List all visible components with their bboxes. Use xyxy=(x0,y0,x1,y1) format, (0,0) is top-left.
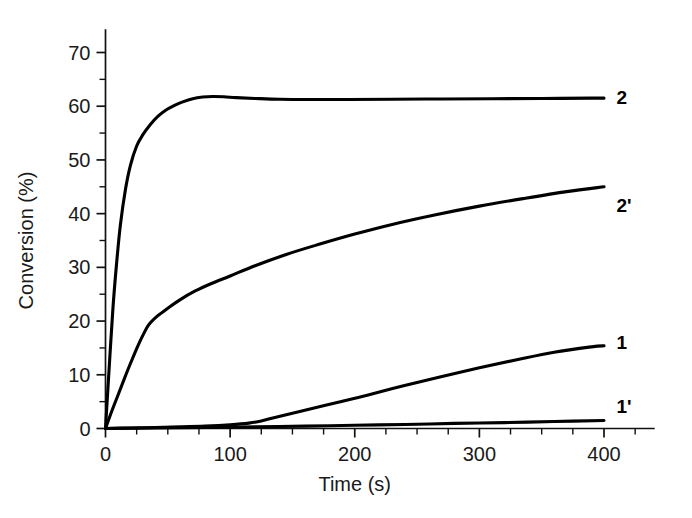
series-line-2-prime xyxy=(106,187,605,429)
series-label-2-prime: 2' xyxy=(616,195,631,216)
y-axis-title: Conversion (%) xyxy=(15,172,37,310)
x-tick-label: 300 xyxy=(463,443,496,465)
x-tick-label: 100 xyxy=(213,443,246,465)
y-tick-label: 60 xyxy=(68,95,90,117)
plot-canvas: 0102030405060700100200300400Time (s)Conv… xyxy=(0,0,692,518)
x-tick-label: 0 xyxy=(100,443,111,465)
y-tick-label: 50 xyxy=(68,149,90,171)
series-label-2: 2 xyxy=(616,87,627,108)
conversion-vs-time-chart: 0102030405060700100200300400Time (s)Conv… xyxy=(0,0,692,518)
series-line-2 xyxy=(106,97,605,429)
y-tick-label: 70 xyxy=(68,42,90,64)
series-label-1-prime: 1' xyxy=(616,396,631,417)
y-tick-label: 40 xyxy=(68,203,90,225)
x-tick-label: 400 xyxy=(587,443,620,465)
x-axis-title: Time (s) xyxy=(318,473,391,495)
y-tick-label: 0 xyxy=(79,418,90,440)
series-line-1-prime xyxy=(106,420,605,428)
y-tick-label: 20 xyxy=(68,310,90,332)
y-tick-label: 30 xyxy=(68,256,90,278)
y-tick-label: 10 xyxy=(68,364,90,386)
x-tick-label: 200 xyxy=(338,443,371,465)
series-line-1 xyxy=(106,346,605,429)
series-label-1: 1 xyxy=(616,332,627,353)
